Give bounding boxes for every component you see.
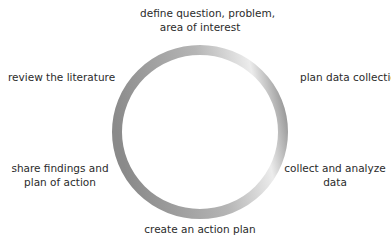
step-review-literature: review the literature — [8, 70, 112, 84]
step-collect-analyze-line1: collect and analyze — [280, 161, 390, 175]
step-plan-data-collection: plan data collection — [300, 70, 380, 84]
step-plan-data-collection-line1: plan data collection — [300, 70, 380, 84]
step-share-findings: share findings and plan of action — [10, 161, 110, 189]
step-define-question-line2: area of interest — [140, 20, 260, 34]
step-create-action-plan: create an action plan — [140, 222, 260, 236]
step-define-question-line1: define question, problem, — [140, 6, 260, 20]
step-create-action-plan-line1: create an action plan — [140, 222, 260, 236]
cycle-ring — [111, 44, 289, 220]
step-review-literature-line1: review the literature — [8, 70, 112, 84]
step-collect-analyze-line2: data — [280, 175, 390, 189]
step-share-findings-line2: plan of action — [10, 175, 110, 189]
step-define-question: define question, problem, area of intere… — [140, 6, 260, 34]
step-share-findings-line1: share findings and — [10, 161, 110, 175]
step-collect-analyze: collect and analyze data — [280, 161, 390, 189]
